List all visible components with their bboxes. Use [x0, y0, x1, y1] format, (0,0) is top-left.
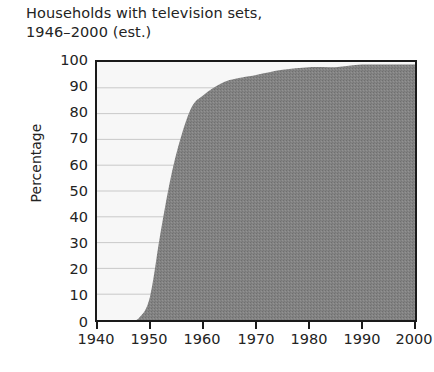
- plot-area: [95, 60, 417, 322]
- x-tick-mark: [96, 322, 98, 329]
- x-axis-tick-labels: 1940 1950 1960 1970 1980 1990 2000: [0, 331, 434, 355]
- x-tick-mark: [361, 322, 363, 329]
- y-tick-label: 90: [54, 79, 88, 94]
- x-tick-mark: [255, 322, 257, 329]
- x-tick-label: 2000: [384, 331, 434, 347]
- y-tick-label: 10: [54, 288, 88, 303]
- y-tick-label: 40: [54, 210, 88, 225]
- y-axis-title: Percentage: [28, 103, 44, 223]
- y-tick-label: 100: [54, 53, 88, 68]
- x-tick-mark: [414, 322, 416, 329]
- area-series-households-with-television-sets: [97, 64, 415, 320]
- x-tick-label: 1970: [226, 331, 286, 347]
- x-tick-label: 1950: [119, 331, 179, 347]
- y-tick-label: 70: [54, 131, 88, 146]
- area-chart-svg: [97, 62, 415, 320]
- x-tick-mark: [149, 322, 151, 329]
- y-tick-label: 20: [54, 262, 88, 277]
- y-tick-label: 30: [54, 236, 88, 251]
- x-tick-label: 1940: [66, 331, 126, 347]
- y-tick-label: 60: [54, 158, 88, 173]
- y-tick-label: 80: [54, 105, 88, 120]
- y-axis-tick-labels: 100 90 80 70 60 50 40 30 20 10 0: [50, 0, 88, 372]
- x-tick-label: 1960: [172, 331, 232, 347]
- x-tick-label: 1990: [332, 331, 392, 347]
- y-tick-label: 50: [54, 184, 88, 199]
- x-tick-label: 1980: [279, 331, 339, 347]
- y-tick-label: 0: [54, 315, 88, 330]
- x-tick-mark: [202, 322, 204, 329]
- x-tick-mark: [308, 322, 310, 329]
- chart-figure: Households with television sets, 1946–20…: [0, 0, 434, 372]
